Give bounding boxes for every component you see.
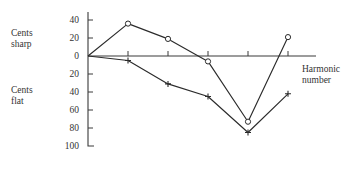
y-axis-tick-label: 40 [70, 87, 80, 97]
data-point-circle [245, 119, 250, 124]
data-point-circle [285, 35, 290, 40]
series-circle-line [88, 24, 288, 122]
y-axis-tick-label: 40 [70, 15, 80, 25]
y-axis-ticks [88, 20, 93, 128]
cents-sharp-label-line1: Cents [11, 28, 33, 38]
y-axis-tick-labels: 4020020406080100 [65, 15, 80, 151]
x-axis-ticks [128, 51, 288, 56]
cents-sharp-label-line2: sharp [11, 39, 32, 49]
data-point-plus [125, 58, 131, 64]
data-point-circle [205, 59, 210, 64]
data-point-circle [125, 21, 130, 26]
harmonic-number-label-line2: number [302, 75, 332, 85]
cents-flat-label-line1: Cents [11, 85, 33, 95]
chart-svg: 4020020406080100 Cents sharp Cents flat … [0, 0, 355, 177]
data-point-plus [165, 81, 171, 87]
series-circle-markers [125, 21, 290, 124]
y-axis-tick-label: 100 [65, 141, 80, 151]
y-axis-line [88, 12, 94, 146]
cents-flat-label-line2: flat [11, 96, 24, 106]
cents-deviation-chart: 4020020406080100 Cents sharp Cents flat … [0, 0, 355, 177]
harmonic-number-label-line1: Harmonic [302, 64, 340, 74]
y-axis-tick-label: 80 [70, 123, 80, 133]
series-plus-line [88, 56, 288, 133]
y-axis-tick-label: 60 [70, 105, 80, 115]
series-plus-markers [125, 58, 291, 136]
y-axis-tick-label: 20 [70, 33, 80, 43]
y-axis-tick-label: 20 [70, 69, 80, 79]
data-point-circle [165, 36, 170, 41]
y-axis-tick-label: 0 [74, 51, 79, 61]
